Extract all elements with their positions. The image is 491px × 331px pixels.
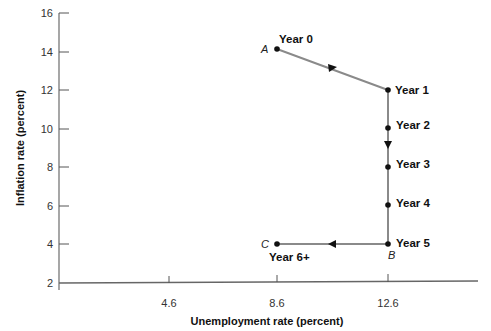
y-tick-labels: 16 14 12 10 8 6 4 2 bbox=[41, 7, 53, 289]
svg-text:10: 10 bbox=[41, 123, 53, 135]
point-label-c: C bbox=[261, 238, 269, 250]
data-points bbox=[274, 46, 391, 247]
svg-text:4: 4 bbox=[47, 238, 53, 250]
svg-text:8: 8 bbox=[47, 161, 53, 173]
arrow-left-icon bbox=[328, 240, 336, 248]
label-year-1: Year 1 bbox=[395, 84, 429, 96]
point-label-a: A bbox=[260, 43, 268, 55]
y-axis-title: Inflation rate (percent) bbox=[14, 90, 26, 206]
y-ticks bbox=[59, 13, 69, 244]
svg-text:12.6: 12.6 bbox=[377, 297, 398, 309]
point-label-b: B bbox=[388, 249, 395, 261]
x-tick-labels: 4.6 8.6 12.6 bbox=[161, 297, 398, 309]
svg-text:4.6: 4.6 bbox=[161, 297, 176, 309]
svg-text:6: 6 bbox=[47, 200, 53, 212]
svg-text:8.6: 8.6 bbox=[269, 297, 284, 309]
label-year-2: Year 2 bbox=[396, 119, 430, 131]
adjustment-path-line bbox=[277, 49, 388, 244]
x-axis bbox=[59, 281, 478, 283]
label-year-3: Year 3 bbox=[396, 158, 430, 170]
svg-text:12: 12 bbox=[41, 84, 53, 96]
label-year-4: Year 4 bbox=[396, 197, 430, 209]
label-year-5: Year 5 bbox=[396, 237, 430, 249]
label-year-6-plus: Year 6+ bbox=[269, 251, 310, 263]
arrow-down-icon bbox=[384, 141, 392, 149]
label-year-0: Year 0 bbox=[279, 33, 313, 45]
x-axis-title: Unemployment rate (percent) bbox=[191, 315, 344, 327]
svg-text:2: 2 bbox=[47, 277, 53, 289]
phillips-curve-chart: 16 14 12 10 8 6 4 2 4.6 8.6 12.6 Unemplo… bbox=[0, 0, 491, 331]
svg-text:16: 16 bbox=[41, 7, 53, 19]
svg-text:14: 14 bbox=[41, 46, 53, 58]
